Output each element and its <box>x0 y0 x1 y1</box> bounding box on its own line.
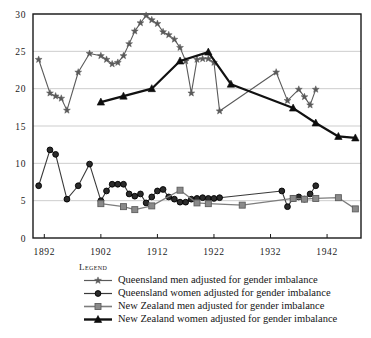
y-tick-label: 30 <box>15 10 26 20</box>
data-point-square <box>194 200 200 206</box>
data-point-star <box>126 40 133 47</box>
data-point-circle <box>143 200 149 206</box>
data-point-circle <box>115 181 121 187</box>
data-point-star <box>199 55 206 62</box>
data-point-circle <box>47 147 53 153</box>
y-tick-label: 5 <box>21 196 26 206</box>
data-point-circle <box>155 188 161 194</box>
data-point-square <box>290 195 296 201</box>
legend-marker-star-icon <box>78 273 118 286</box>
series-3 <box>97 48 359 141</box>
data-point-star <box>154 20 161 27</box>
legend-label: New Zealand men adjusted for gender imba… <box>118 299 324 312</box>
legend-label: Queensland women adjusted for gender imb… <box>118 286 331 299</box>
data-point-circle <box>171 196 177 202</box>
legend-label: Queensland men adjusted for gender imbal… <box>118 273 318 286</box>
legend-row[interactable]: New Zealand men adjusted for gender imba… <box>78 299 368 312</box>
data-point-square <box>120 204 126 210</box>
legend-entries: Queensland men adjusted for gender imbal… <box>78 273 368 325</box>
data-point-square <box>352 206 358 212</box>
data-point-square <box>335 195 341 201</box>
legend-marker-triangle-icon <box>78 312 118 325</box>
data-point-star <box>64 107 71 114</box>
data-point-circle <box>95 291 101 297</box>
legend-title: Legend <box>78 262 368 272</box>
data-point-circle <box>121 181 127 187</box>
chart-figure: 051015202530 189219021912192219321942 Le… <box>0 0 371 338</box>
legend-row[interactable]: Queensland women adjusted for gender imb… <box>78 286 368 299</box>
data-point-circle <box>149 194 155 200</box>
data-point-star <box>312 86 319 93</box>
data-point-circle <box>64 196 70 202</box>
data-point-star <box>171 36 178 43</box>
y-tick-label: 15 <box>15 122 26 132</box>
y-tick-label: 10 <box>15 159 26 169</box>
data-point-circle <box>75 183 81 189</box>
data-point-square <box>177 187 183 193</box>
data-point-square <box>301 196 307 202</box>
data-point-square <box>95 304 101 310</box>
legend-row[interactable]: New Zealand women adjusted for gender im… <box>78 312 368 325</box>
data-point-square <box>149 203 155 209</box>
series-2 <box>98 187 358 212</box>
legend: Legend Queensland men adjusted for gende… <box>78 262 368 325</box>
data-point-circle <box>138 191 144 197</box>
data-point-circle <box>279 188 285 194</box>
data-point-star <box>35 56 42 63</box>
data-point-circle <box>53 151 59 157</box>
data-point-circle <box>104 188 110 194</box>
data-point-square <box>313 195 319 201</box>
x-tick-label: 1892 <box>34 247 55 257</box>
data-point-square <box>205 201 211 207</box>
data-point-circle <box>183 199 189 205</box>
data-point-star <box>58 95 65 102</box>
legend-marker-circle-icon <box>78 286 118 299</box>
x-tick-label: 1942 <box>316 247 337 257</box>
data-point-circle <box>285 204 291 210</box>
data-point-circle <box>211 196 217 202</box>
x-tick-label: 1902 <box>90 247 111 257</box>
y-tick-label: 0 <box>21 234 26 244</box>
data-point-star <box>75 69 82 76</box>
data-point-circle <box>126 191 132 197</box>
data-point-circle <box>313 183 319 189</box>
data-point-star <box>216 107 223 114</box>
data-point-circle <box>177 199 183 205</box>
data-point-circle <box>200 195 206 201</box>
data-point-star <box>95 277 102 284</box>
x-axis-tick-labels: 189219021912192219321942 <box>34 247 338 257</box>
y-axis-tick-labels: 051015202530 <box>15 10 26 244</box>
legend-label: New Zealand women adjusted for gender im… <box>118 312 337 325</box>
data-point-star <box>188 90 195 97</box>
y-tick-label: 25 <box>15 47 26 57</box>
data-point-star <box>86 50 93 57</box>
legend-marker-square-icon <box>78 299 118 312</box>
x-tick-label: 1932 <box>260 247 281 257</box>
data-point-square <box>132 207 138 213</box>
data-point-circle <box>36 183 42 189</box>
data-series-layer <box>35 12 359 213</box>
data-point-square <box>98 201 104 207</box>
legend-row[interactable]: Queensland men adjusted for gender imbal… <box>78 273 368 286</box>
x-tick-label: 1922 <box>203 247 224 257</box>
data-point-circle <box>132 193 138 199</box>
data-point-circle <box>87 161 93 167</box>
y-tick-label: 20 <box>15 84 26 94</box>
data-point-square <box>239 202 245 208</box>
data-point-star <box>120 52 127 59</box>
x-tick-label: 1912 <box>147 247 168 257</box>
data-point-circle <box>109 181 115 187</box>
data-point-circle <box>217 195 223 201</box>
data-point-star <box>52 93 59 100</box>
data-point-circle <box>307 191 313 197</box>
data-point-circle <box>160 187 166 193</box>
